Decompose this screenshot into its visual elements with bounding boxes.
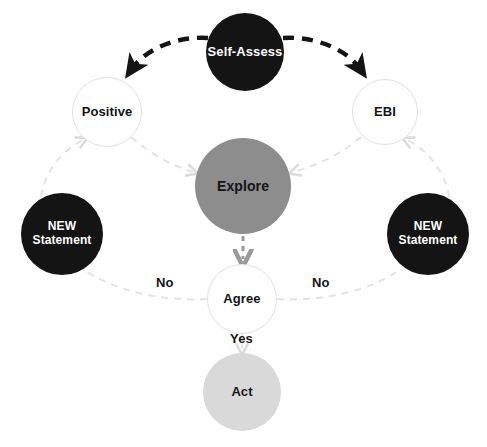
node-positive-label: Positive [82, 105, 133, 120]
node-ebi[interactable]: EBI [352, 79, 418, 145]
edge-positive-to-explore [131, 137, 193, 172]
node-self-assess[interactable]: Self-Assess [206, 13, 284, 91]
edge-agree-to-new-statement-right [277, 270, 399, 299]
node-agree-label: Agree [223, 292, 260, 307]
edge-agree-to-new-statement-left [85, 270, 207, 299]
edge-self-assess-to-positive [131, 38, 208, 70]
node-positive[interactable]: Positive [72, 77, 142, 147]
edge-new-statement-right-to-ebi [407, 140, 449, 197]
edge-new-statement-left-to-positive [41, 140, 83, 197]
node-self-assess-label: Self-Assess [208, 45, 283, 60]
node-new-statement-left-label: NEW Statement [33, 220, 92, 248]
node-explore-label: Explore [217, 178, 269, 194]
node-explore[interactable]: Explore [195, 138, 291, 234]
node-new-statement-right-label: NEW Statement [399, 220, 458, 248]
node-act-label: Act [231, 385, 252, 400]
edge-self-assess-to-ebi [283, 38, 361, 70]
edge-ebi-to-explore [294, 137, 361, 172]
node-ebi-label: EBI [374, 105, 396, 120]
node-new-statement-right[interactable]: NEW Statement [387, 193, 469, 275]
node-new-statement-left[interactable]: NEW Statement [21, 193, 103, 275]
node-agree[interactable]: Agree [207, 264, 277, 334]
node-act[interactable]: Act [203, 353, 281, 431]
edge-label-no-left: No [156, 275, 174, 290]
flow-diagram: Self-Assess Positive EBI Explore NEW Sta… [0, 0, 487, 447]
edge-label-no-right: No [312, 275, 330, 290]
edge-label-yes: Yes [230, 331, 253, 346]
